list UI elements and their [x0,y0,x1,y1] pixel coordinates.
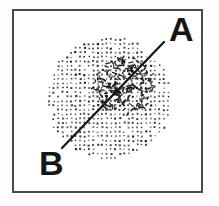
diagram-canvas: A B [0,0,219,206]
figure-page: A B [0,0,219,206]
label-a: A [169,10,194,48]
label-b: B [39,144,64,182]
